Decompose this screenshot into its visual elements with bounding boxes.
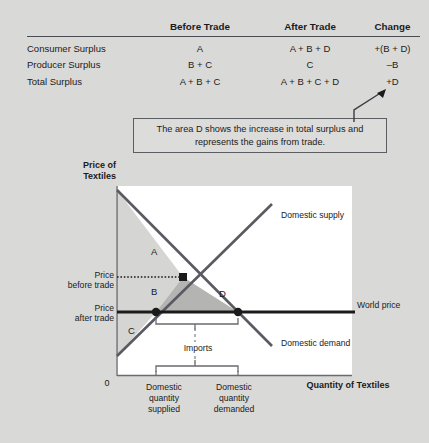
price-after-trade-label: Price after trade — [34, 303, 114, 324]
table-row: Total Surplus A + B + C A + B + C + D +D — [27, 70, 420, 87]
xtick-label-supplied: Domestic quantity supplied — [134, 382, 194, 416]
row-label-producer-surplus: Producer Surplus — [27, 53, 145, 70]
xtick-supplied-line2: quantity — [149, 393, 179, 403]
price-after-trade-line2: after trade — [75, 313, 114, 323]
cell-consumer-change: +(B + D) — [365, 36, 420, 53]
callout-text: The area D shows the increase in total s… — [134, 123, 386, 147]
autarky-equilibrium-point — [179, 273, 187, 281]
surplus-table: Before Trade After Trade Change Consumer… — [27, 22, 420, 86]
table-row: Consumer Surplus A A + B + D +(B + D) — [27, 36, 420, 53]
domestic-quantity-supplied-point — [152, 308, 160, 316]
figure-page: Before Trade After Trade Change Consumer… — [0, 0, 429, 443]
col-header-change: Change — [365, 22, 420, 36]
region-D-label: D — [219, 288, 226, 299]
price-after-trade-line1: Price — [94, 303, 114, 313]
table-row: Producer Surplus B + C C –B — [27, 53, 420, 70]
row-label-consumer-surplus: Consumer Surplus — [27, 36, 145, 53]
cell-total-before: A + B + C — [145, 70, 255, 87]
domestic-supply-label: Domestic supply — [281, 210, 353, 221]
cell-producer-before: B + C — [145, 53, 255, 70]
world-price-label: World price — [357, 300, 403, 311]
cell-consumer-before: A — [145, 36, 255, 53]
xtick-demanded-line2: quantity — [219, 393, 249, 403]
cell-producer-change: –B — [365, 53, 420, 70]
xtick-supplied-line1: Domestic — [146, 382, 182, 392]
xtick-label-demanded: Domestic quantity demanded — [204, 382, 264, 416]
row-label-total-surplus: Total Surplus — [27, 70, 145, 87]
trade-surplus-chart: Price of Textiles Price before trade Pri… — [0, 160, 429, 443]
imports-label: Imports — [170, 343, 226, 353]
table-head: Before Trade After Trade Change — [27, 22, 420, 36]
region-C-label: C — [128, 325, 135, 336]
cell-consumer-after: A + B + D — [255, 36, 365, 53]
region-A-label: A — [151, 246, 157, 257]
table-header-row: Before Trade After Trade Change — [27, 22, 420, 36]
cell-producer-after: C — [255, 53, 365, 70]
xtick-demanded-line3: demanded — [214, 404, 255, 414]
cell-total-after: A + B + C + D — [255, 70, 365, 87]
callout-box: The area D shows the increase in total s… — [133, 118, 387, 153]
col-header-before-trade: Before Trade — [145, 22, 255, 36]
origin-label: 0 — [101, 378, 113, 389]
region-A-shape — [117, 190, 183, 277]
xtick-demanded-line1: Domestic — [216, 382, 252, 392]
domestic-quantity-demanded-point — [234, 308, 242, 316]
col-header-blank — [27, 22, 145, 36]
price-before-trade-line1: Price — [94, 270, 114, 280]
imports-bracket-lower — [156, 360, 238, 372]
x-axis-title: Quantity of Textiles — [300, 380, 396, 391]
cell-total-change: +D — [365, 70, 420, 87]
imports-bracket-upper — [156, 318, 238, 330]
surplus-table-block: Before Trade After Trade Change Consumer… — [0, 22, 429, 86]
xtick-supplied-line3: supplied — [148, 404, 180, 414]
col-header-after-trade: After Trade — [255, 22, 365, 36]
price-before-trade-label: Price before trade — [34, 270, 114, 291]
callout-arrow-icon — [352, 88, 392, 124]
table-body: Consumer Surplus A A + B + D +(B + D) Pr… — [27, 36, 420, 86]
price-before-trade-line2: before trade — [68, 280, 114, 290]
domestic-demand-label: Domestic demand — [281, 338, 353, 349]
region-B-label: B — [151, 286, 157, 297]
y-axis-title: Price of Textiles — [52, 160, 116, 183]
